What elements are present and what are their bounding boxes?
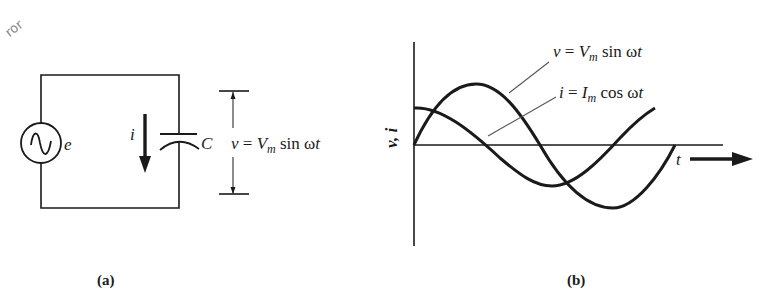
y-axis-label: v, i — [383, 128, 400, 148]
curve-i-cos — [414, 108, 655, 186]
source-label: e — [64, 136, 72, 153]
current-arrow-head — [139, 156, 151, 173]
caption-b: (b) — [567, 273, 585, 288]
leader-v — [509, 62, 549, 93]
leader-i — [488, 97, 556, 136]
t-axis-label: t — [676, 151, 681, 168]
capacitor-label: C — [201, 135, 212, 152]
figure-canvas — [0, 0, 767, 306]
t-arrow-head — [732, 152, 753, 166]
voltage-equation-a: v = Vm sin ωt — [229, 135, 322, 155]
current-label: i — [130, 126, 135, 143]
ac-source-icon — [21, 123, 61, 163]
circuit-diagram — [21, 75, 249, 208]
curve-i-label: i = Im cos ωt — [559, 84, 643, 104]
caption-a: (a) — [97, 273, 115, 288]
sine-glyph-icon — [31, 133, 51, 154]
waveform-plot — [414, 42, 753, 246]
curve-v-label: v = Vm sin ωt — [553, 43, 642, 63]
